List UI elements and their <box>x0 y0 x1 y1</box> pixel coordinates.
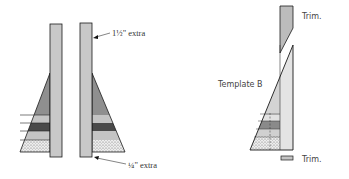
quilting-diagram: 1½" extra ¼" extra Trim. Template B Trim… <box>0 0 349 179</box>
label-trim-top: Trim. <box>301 12 322 21</box>
trim-bottom-piece <box>281 156 293 160</box>
label-template-b: Template B <box>217 80 263 89</box>
label-extra-bottom: ¼" extra <box>128 160 157 170</box>
right-strip <box>80 23 92 157</box>
label-extra-top: 1½" extra <box>112 28 145 38</box>
arrow-extra-bottom <box>94 156 126 164</box>
label-trim-bottom: Trim. <box>301 155 322 164</box>
arrow-extra-top <box>93 33 110 39</box>
left-strip <box>50 24 62 157</box>
trim-top-piece <box>280 6 293 53</box>
